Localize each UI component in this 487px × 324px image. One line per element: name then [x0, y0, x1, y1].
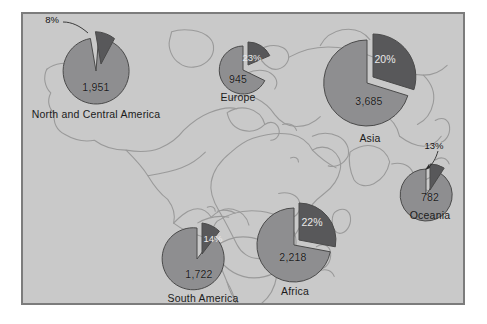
iberia-outline — [227, 108, 265, 131]
pie-africa-region-label: Africa — [265, 285, 325, 297]
pie-na-region-label: North and Central America — [26, 108, 166, 120]
pie-sa-value-label: 1,722 — [172, 268, 226, 280]
greece-outline — [283, 124, 297, 131]
pie-oceania-region-label: Oceania — [400, 209, 460, 221]
horn-of-africa-outline — [312, 150, 336, 168]
pie-asia-region-label: Asia — [340, 132, 400, 144]
pie-africa-value-label: 2,218 — [262, 251, 324, 263]
pie-sa-percent-label: 14% — [196, 233, 230, 244]
pie-asia[interactable] — [322, 36, 416, 130]
pie-oceania-leader-line — [424, 150, 444, 172]
pie-north-and-central-america-graphic — [58, 33, 134, 109]
pie-africa-percent-label: 22% — [294, 216, 330, 228]
us-gulf-outline — [148, 152, 205, 176]
pie-sa-region-label: South America — [160, 292, 246, 304]
pie-na-value-label: 1,951 — [66, 81, 126, 93]
pie-north-and-central-america[interactable] — [58, 33, 134, 109]
pie-europe-region-label: Europe — [208, 91, 268, 103]
island-marker-b-outline — [207, 207, 215, 212]
island-marker-a-outline — [291, 157, 299, 162]
pie-europe-percent-label: 23% — [236, 52, 268, 63]
pie-asia-value-label: 3,685 — [337, 95, 401, 107]
greenland-outline — [169, 30, 213, 67]
pie-oceania-value-label: 782 — [408, 191, 452, 203]
pie-europe-value-label: 945 — [216, 73, 260, 85]
world-pie-map-figure: 8% 1,951 North and Central America 23% 9… — [0, 0, 487, 324]
pie-asia-graphic — [322, 36, 416, 130]
pie-asia-percent-label: 20% — [367, 53, 403, 65]
italy-outline — [265, 122, 279, 140]
pie-na-leader-line — [62, 19, 94, 37]
japan-outline — [435, 118, 449, 142]
pie-na-main-slice — [63, 38, 129, 104]
india-outline — [349, 145, 389, 185]
kamchatka-outline — [417, 75, 433, 124]
